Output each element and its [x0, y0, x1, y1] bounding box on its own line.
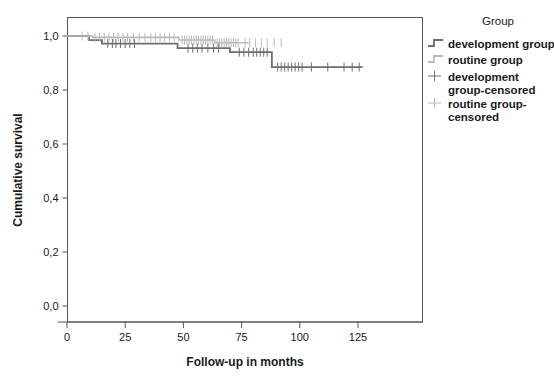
x-axis-title: Follow-up in months — [186, 355, 304, 369]
y-tick-label: 1,0 — [43, 30, 58, 42]
x-tick-label: 50 — [177, 331, 189, 343]
legend-label: routine group — [448, 54, 523, 66]
y-tick-label: 0,8 — [43, 84, 58, 96]
y-tick-label: 0,6 — [43, 138, 58, 150]
plot-area-border — [68, 18, 423, 323]
survival-chart-svg: 1,00,80,60,40,20,0 0255075100125 Cumulat… — [0, 0, 554, 376]
x-tick-label: 0 — [64, 331, 70, 343]
legend-label: development — [448, 71, 519, 83]
legend-label: routine group- — [448, 98, 527, 110]
y-tick-label: 0,2 — [43, 246, 58, 258]
legend-label: censored — [448, 111, 499, 123]
legend-label: development group — [448, 38, 554, 50]
x-tick-label: 125 — [349, 331, 367, 343]
y-axis-title: Cumulative survival — [11, 113, 25, 226]
y-tick-label: 0,4 — [43, 192, 58, 204]
x-tick-label: 100 — [291, 331, 309, 343]
kaplan-meier-figure: 1,00,80,60,40,20,0 0255075100125 Cumulat… — [0, 0, 554, 376]
legend-title: Group — [482, 15, 514, 27]
legend-label: group-censored — [448, 84, 536, 96]
x-tick-label: 75 — [235, 331, 247, 343]
x-tick-label: 25 — [119, 331, 131, 343]
y-tick-label: 0,0 — [43, 300, 58, 312]
